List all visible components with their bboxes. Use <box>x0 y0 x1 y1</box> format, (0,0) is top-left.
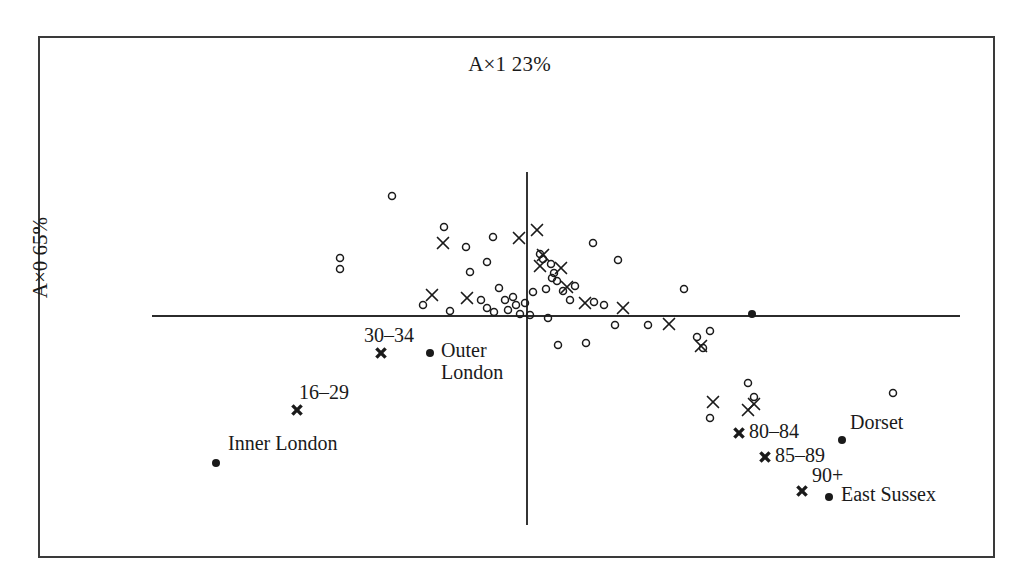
point-label: 30–34 <box>364 325 414 347</box>
point-label: Dorset <box>850 412 903 434</box>
point-label-line: London <box>441 361 503 383</box>
point-label-line: Outer <box>441 339 503 361</box>
correspondence-analysis-biplot: A×1 23% A×0 65% 30–3416–2980–8485–8990+O… <box>0 0 1019 585</box>
point-label: 90+ <box>812 465 843 487</box>
y-axis-label: A×0 65% <box>28 188 53 328</box>
point-label: OuterLondon <box>441 339 503 384</box>
point-label: 80–84 <box>749 421 799 443</box>
point-label: 16–29 <box>299 382 349 404</box>
plot-frame <box>38 36 995 558</box>
point-label: East Sussex <box>841 484 936 506</box>
chart-title: A×1 23% <box>0 52 1019 77</box>
point-label: Inner London <box>228 433 337 455</box>
